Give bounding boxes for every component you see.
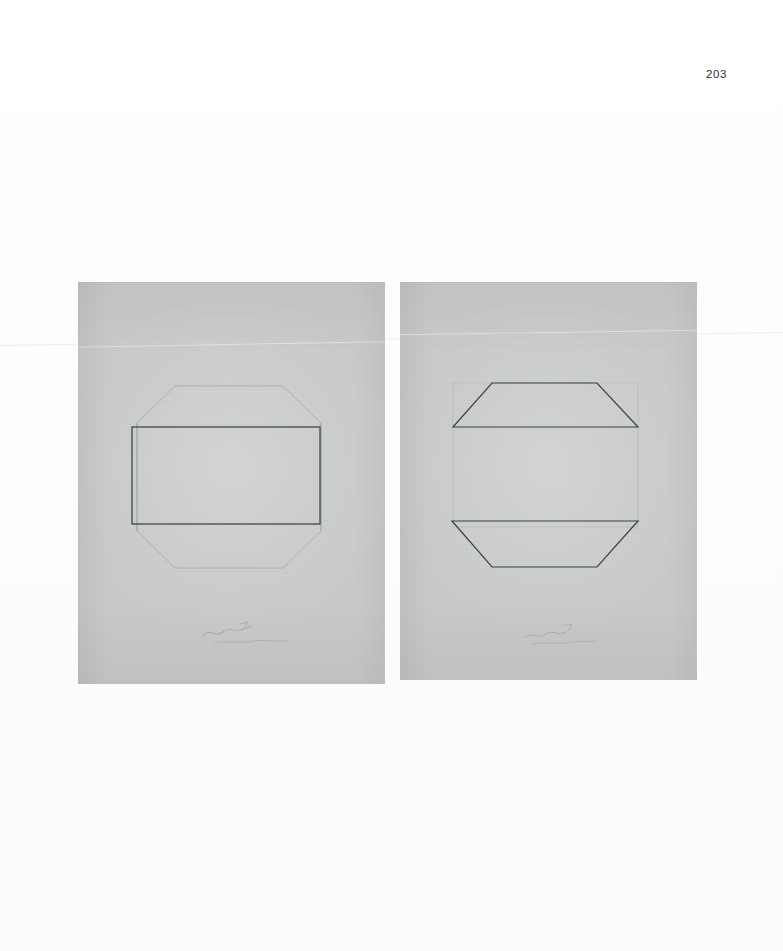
left-drawing [78,282,385,684]
scanned-page: 203 [0,0,783,951]
upper-trapezoid-shape [453,383,638,427]
faint-rectangle-shape [453,383,638,527]
plate-left-octagon-with-rectangle [78,282,385,684]
dark-rectangle-shape [132,427,320,524]
plate-right-two-trapezoids [400,282,697,680]
right-drawing [400,282,697,680]
lower-trapezoid-shape [452,521,638,567]
page-number: 203 [706,68,727,80]
faint-octagon-shape [137,386,321,568]
